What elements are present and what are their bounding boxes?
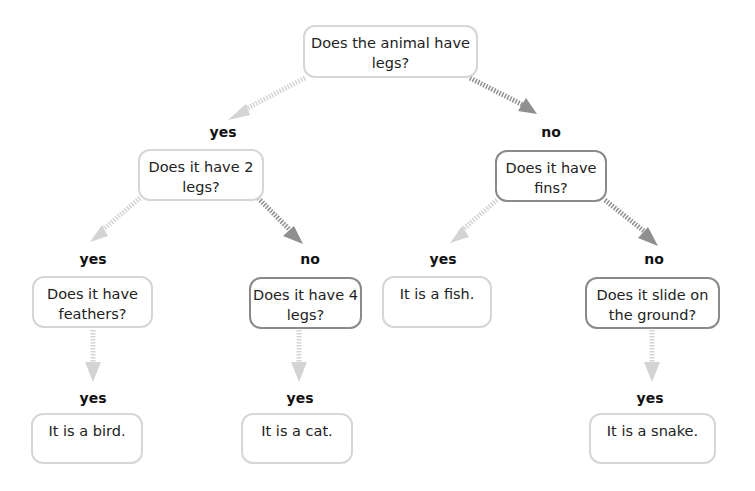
label-fins-yes: yes — [413, 251, 473, 267]
node-slide-text: Does it slide on the ground? — [597, 287, 709, 323]
label-root-yes: yes — [193, 124, 253, 140]
arrow-fins-no — [605, 200, 658, 246]
node-two-legs: Does it have 2 legs? — [138, 149, 264, 201]
arrow-two-legs-yes — [90, 198, 140, 242]
node-feathers: Does it have feathers? — [32, 276, 153, 328]
node-four-legs-text: Does it have 4 legs? — [253, 287, 358, 323]
label-fins-no: no — [624, 251, 684, 267]
label-root-no: no — [521, 124, 581, 140]
node-fish: It is a fish. — [382, 276, 492, 328]
arrow-slide-yes — [644, 330, 660, 382]
label-two-legs-no: no — [280, 251, 340, 267]
node-slide: Does it slide on the ground? — [585, 277, 720, 329]
arrow-two-legs-no — [258, 198, 303, 244]
label-slide-yes: yes — [620, 390, 680, 406]
node-root-text: Does the animal have legs? — [311, 35, 470, 71]
node-fins: Does it have fins? — [495, 150, 607, 202]
label-four-legs-yes: yes — [270, 390, 330, 406]
node-cat-text: It is a cat. — [261, 423, 332, 439]
node-feathers-text: Does it have feathers? — [47, 286, 138, 322]
node-bird: It is a bird. — [31, 413, 143, 464]
node-snake-text: It is a snake. — [607, 423, 698, 439]
node-cat: It is a cat. — [241, 413, 353, 464]
node-two-legs-text: Does it have 2 legs? — [149, 159, 254, 195]
arrow-four-legs-yes — [291, 330, 307, 382]
arrow-fins-yes — [450, 200, 497, 243]
label-two-legs-yes: yes — [63, 251, 123, 267]
node-bird-text: It is a bird. — [48, 423, 125, 439]
arrow-root-yes — [228, 78, 305, 120]
node-fish-text: It is a fish. — [400, 286, 475, 302]
node-snake: It is a snake. — [589, 413, 716, 464]
node-fins-text: Does it have fins? — [505, 160, 596, 196]
arrow-root-no — [470, 78, 537, 114]
arrow-feathers-yes — [85, 330, 101, 382]
node-four-legs: Does it have 4 legs? — [249, 277, 362, 329]
label-feathers-yes: yes — [63, 390, 123, 406]
node-root: Does the animal have legs? — [303, 25, 478, 78]
